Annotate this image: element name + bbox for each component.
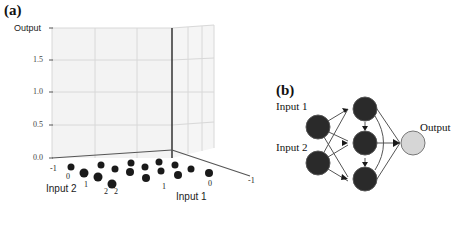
panel-b-label: (b) <box>276 82 294 99</box>
y-tick-2b: 2 <box>114 187 118 196</box>
input-node-1 <box>306 115 330 139</box>
hidden-node-1 <box>353 97 377 121</box>
x-tick-neg1: -1 <box>248 176 255 185</box>
input-2-label: Input 2 <box>276 141 307 153</box>
z-tick-0-0: 0.0 <box>33 153 43 162</box>
back-wall-left <box>52 28 172 158</box>
output-label: Output <box>420 121 451 133</box>
hidden-node-3 <box>353 167 377 191</box>
y-tick-0: 0 <box>66 172 70 181</box>
data-points <box>68 159 214 189</box>
input-node-2 <box>306 151 330 175</box>
z-tick-1-5: 1.5 <box>33 55 43 64</box>
z-tick-1-0: 1.0 <box>33 87 43 96</box>
input-1-label: Input 1 <box>276 100 307 112</box>
z-axis-label: Output <box>14 23 41 33</box>
hidden-node-2 <box>353 131 377 155</box>
y-tick-2a: 2 <box>104 187 108 196</box>
x-axis-label: Input 1 <box>176 191 207 202</box>
y-axis-label: Input 2 <box>46 183 77 194</box>
z-tick-0-5: 0.5 <box>33 120 43 129</box>
y-tick-neg1: -1 <box>50 164 57 173</box>
output-node <box>401 131 425 155</box>
y-tick-1: 1 <box>84 180 88 189</box>
x-tick-0: 0 <box>208 179 212 188</box>
x-tick-1: 1 <box>162 182 166 191</box>
